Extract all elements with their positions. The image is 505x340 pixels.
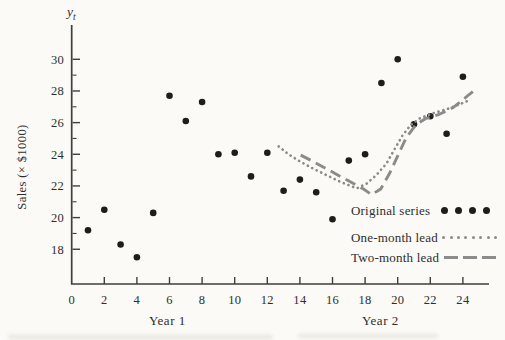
- x-group-label-year2: Year 2: [362, 313, 399, 329]
- data-point: [199, 99, 206, 106]
- data-point: [329, 216, 336, 223]
- data-point: [101, 206, 108, 213]
- data-point: [231, 149, 238, 156]
- data-point: [117, 241, 124, 248]
- data-point: [394, 56, 401, 63]
- y-tick-label-28: 28: [51, 84, 64, 98]
- data-point: [297, 176, 304, 183]
- x-tick-label-20: 20: [391, 293, 404, 307]
- legend-item-one-month-lead: One-month lead: [351, 230, 490, 245]
- data-point: [378, 80, 385, 87]
- x-tick-label-0: 0: [68, 293, 75, 307]
- y-axis-symbol: yt: [67, 4, 76, 22]
- x-tick-label-16: 16: [326, 293, 339, 307]
- data-point: [443, 130, 450, 137]
- legend-label-one-month-lead: One-month lead: [351, 230, 438, 246]
- plot-area: 18202224262830024681012141618202224: [0, 0, 505, 340]
- scan-artifact: [298, 334, 438, 338]
- scan-artifact: [8, 335, 273, 339]
- data-point: [460, 73, 467, 80]
- data-point: [362, 151, 369, 158]
- y-tick-label-26: 26: [51, 116, 64, 130]
- x-group-label-year1: Year 1: [149, 313, 186, 329]
- x-tick-label-14: 14: [293, 293, 307, 307]
- two-month-lead-line: [301, 88, 478, 195]
- y-tick-label-20: 20: [51, 211, 64, 225]
- x-tick-label-8: 8: [199, 293, 206, 307]
- x-tick-label-18: 18: [359, 293, 372, 307]
- x-tick-label-2: 2: [101, 293, 108, 307]
- x-tick-label-4: 4: [134, 293, 141, 307]
- two-month-lead-marker-icon: [439, 256, 496, 259]
- y-axis-symbol-subscript: t: [73, 12, 76, 22]
- x-tick-label-12: 12: [261, 293, 274, 307]
- legend-item-two-month-lead: Two-month lead: [351, 250, 490, 265]
- x-tick-label-10: 10: [228, 293, 241, 307]
- legend-label-original-series: Original series: [351, 203, 430, 219]
- data-point: [280, 187, 287, 194]
- leading-indicator-sales-chart: 18202224262830024681012141618202224 yt S…: [0, 0, 505, 340]
- data-point: [134, 254, 141, 261]
- x-tick-label-6: 6: [166, 293, 173, 307]
- data-point: [85, 227, 92, 234]
- legend-item-original-series: Original series: [351, 203, 490, 218]
- data-point: [183, 118, 190, 125]
- y-tick-label-18: 18: [51, 243, 64, 257]
- x-tick-label-24: 24: [456, 293, 470, 307]
- y-tick-label-22: 22: [51, 179, 64, 193]
- data-point: [215, 151, 222, 158]
- y-axis-title: Sales (× $1000): [15, 124, 30, 209]
- legend-label-two-month-lead: Two-month lead: [351, 250, 439, 266]
- data-point: [313, 189, 320, 196]
- one-month-lead-marker-icon: [438, 236, 497, 239]
- data-point: [150, 210, 157, 217]
- data-point: [166, 92, 173, 99]
- x-tick-label-22: 22: [424, 293, 437, 307]
- data-point: [346, 157, 353, 164]
- y-tick-label-30: 30: [51, 53, 64, 67]
- y-tick-label-24: 24: [51, 148, 65, 162]
- original-series-marker-icon: [434, 207, 490, 214]
- data-point: [264, 149, 271, 156]
- data-point: [248, 173, 255, 180]
